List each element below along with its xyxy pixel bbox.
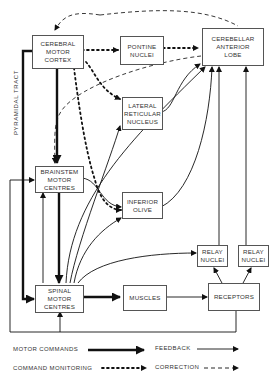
node-spinal-motor-centres: SPINAL MOTOR CENTRES: [35, 285, 84, 313]
legend-command-monitoring: COMMAND MONITORING: [13, 365, 92, 371]
node-pontine-nuclei: PONTINE NUCLEI: [120, 36, 164, 65]
node-receptors: RECEPTORS: [208, 283, 260, 311]
node-inferior-olive: INFERIOR OLIVE: [122, 192, 163, 219]
legend-feedback: FEEDBACK: [155, 345, 191, 351]
node-cerebellar-anterior-lobe: CEREBELLAR ANTERIOR LOBE: [202, 28, 264, 66]
legend-correction: CORRECTION: [155, 364, 199, 370]
node-lateral-reticular-nucleus: LATERAL RETICULAR NUCLEUS: [122, 97, 163, 130]
node-brainstem-motor-centres: BRAINSTEM MOTOR CENTRES: [35, 166, 84, 193]
pyramidal-tract-label: PYRAMIDAL TRACT: [13, 70, 19, 135]
node-relay-nuclei-2: RELAY NUCLEI: [238, 245, 269, 267]
node-muscles: MUSCLES: [123, 285, 167, 311]
legend-motor-commands: MOTOR COMMANDS: [13, 346, 78, 352]
node-relay-nuclei-1: RELAY NUCLEI: [197, 245, 228, 267]
node-cerebral-motor-cortex: CEREBRAL MOTOR CORTEX: [32, 35, 84, 69]
